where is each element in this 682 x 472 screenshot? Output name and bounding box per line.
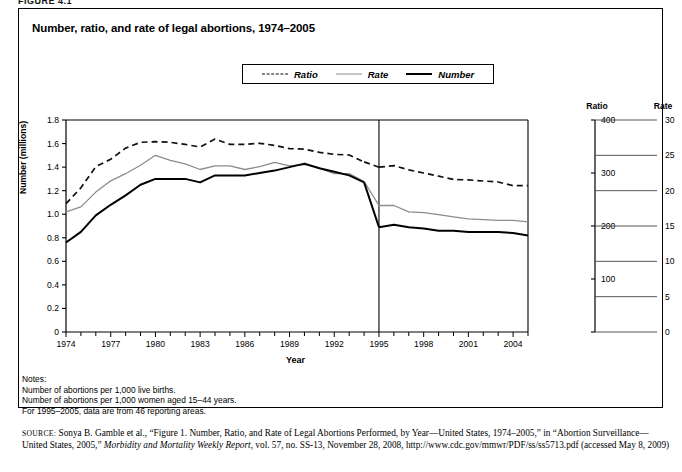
x-axis-title: Year <box>286 355 305 365</box>
legend-label-rate: Rate <box>368 69 389 80</box>
chart-legend: Ratio Rate Number <box>242 64 494 84</box>
note-line-3: For 1995–2005, data are from 46 reportin… <box>22 406 237 417</box>
notes-heading: Notes: <box>22 374 237 385</box>
ratio-line-icon <box>262 70 288 78</box>
y-tick-label-rate: 5 <box>665 292 670 302</box>
source-journal: Morbidity and Mortality Weekly Report <box>104 440 251 450</box>
y-tick-label-rate: 25 <box>665 150 675 160</box>
y-axis-title-left: Number (millions) <box>18 180 28 194</box>
y-tick-label-rate: 10 <box>665 256 675 266</box>
y-tick-label-rate: 15 <box>665 221 675 231</box>
y-tick-label-rate: 30 <box>665 115 675 125</box>
source-citation: SOURCE: Sonya B. Gamble et al., “Figure … <box>22 428 670 451</box>
note-line-2: Number of abortions per 1,000 women aged… <box>22 395 237 406</box>
y-tick-label-rate: 20 <box>665 186 675 196</box>
rate-line-icon <box>336 70 362 78</box>
legend-label-number: Number <box>438 69 474 80</box>
y-tick-label-rate: 0 <box>665 327 670 337</box>
note-line-1: Number of abortions per 1,000 live birth… <box>22 385 237 396</box>
legend-item-rate[interactable]: Rate <box>336 69 389 80</box>
source-tail: , vol. 57, no. SS-13, November 28, 2008,… <box>251 440 670 450</box>
chart-title: Number, ratio, and rate of legal abortio… <box>32 22 315 34</box>
notes-block: Notes: Number of abortions per 1,000 liv… <box>22 374 237 416</box>
legend-item-ratio[interactable]: Ratio <box>262 69 318 80</box>
legend-label-ratio: Ratio <box>294 69 318 80</box>
number-line-icon <box>406 70 432 78</box>
legend-item-number[interactable]: Number <box>406 69 474 80</box>
source-prefix: SOURCE: <box>22 429 56 438</box>
figure-label: FIGURE 4.1 <box>18 0 72 6</box>
